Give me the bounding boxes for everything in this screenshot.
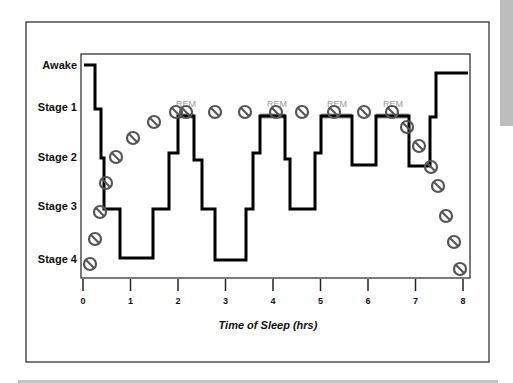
x-tick-label: 1 (128, 296, 133, 306)
slashed-circle-icon (239, 106, 251, 118)
x-tick-label: 2 (175, 296, 180, 306)
slashed-circle-icon (448, 236, 460, 248)
slashed-circle-icon (89, 233, 101, 245)
slashed-circle-icon (454, 263, 466, 275)
y-label-stage2: Stage 2 (38, 151, 77, 163)
slashed-circle-icon (110, 151, 122, 163)
y-label-awake: Awake (42, 59, 77, 71)
slashed-circle-icon (440, 210, 452, 222)
rem-label: REM (383, 99, 403, 109)
sleep-cycle-chart: Awake Stage 1 Stage 2 Stage 3 Stage 4 01… (0, 0, 513, 383)
slashed-circle-icon (358, 106, 370, 118)
hypnogram-line (84, 65, 468, 260)
slashed-circle-icon (209, 106, 221, 118)
x-tick-label: 6 (365, 296, 370, 306)
y-label-stage3: Stage 3 (38, 200, 77, 212)
x-tick-label: 0 (80, 296, 85, 306)
x-tick-label: 7 (413, 296, 418, 306)
slashed-circle-icon (148, 116, 160, 128)
slashed-circle-icon (432, 180, 444, 192)
slashed-circle-icon (84, 258, 96, 270)
x-axis: 012345678 (80, 279, 465, 306)
x-axis-title: Time of Sleep (hrs) (219, 319, 318, 331)
slashed-circle-icon (100, 177, 112, 189)
slashed-circle-icon (401, 121, 413, 133)
slashed-circle-icon (413, 140, 425, 152)
slashed-circle-icon (296, 106, 308, 118)
slashed-circle-icon (127, 132, 139, 144)
x-tick-label: 4 (270, 296, 275, 306)
x-tick-label: 5 (318, 296, 323, 306)
y-axis-labels: Awake Stage 1 Stage 2 Stage 3 Stage 4 (38, 59, 78, 265)
side-tab (500, 0, 513, 126)
chart-canvas: Awake Stage 1 Stage 2 Stage 3 Stage 4 01… (0, 0, 513, 383)
x-tick-label: 8 (460, 296, 465, 306)
y-label-stage4: Stage 4 (38, 253, 78, 265)
x-tick-label: 3 (223, 296, 228, 306)
slashed-circle-icon (94, 206, 106, 218)
y-label-stage1: Stage 1 (38, 101, 77, 113)
rem-label: REM (267, 99, 287, 109)
